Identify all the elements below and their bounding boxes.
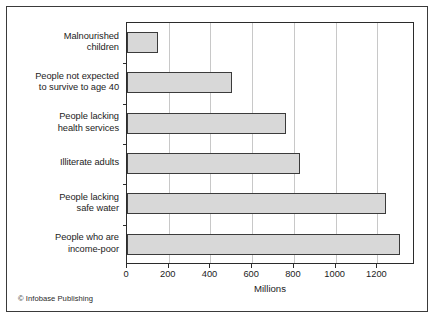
x-axis-tick-label: 1000 xyxy=(324,268,345,280)
copyright-credit: © Infobase Publishing xyxy=(18,294,93,303)
x-axis-tick-label: 200 xyxy=(160,268,176,280)
bar-row xyxy=(127,184,413,224)
y-axis-tick-mark xyxy=(123,225,127,226)
y-axis-category-label: Illiterate adults xyxy=(7,143,119,183)
y-axis-category-label: People lackingsafe water xyxy=(7,183,119,223)
y-axis-category-label: Malnourishedchildren xyxy=(7,22,119,62)
y-axis-tick-mark xyxy=(123,184,127,185)
x-axis-tick-label: 800 xyxy=(285,268,301,280)
y-axis-category-text: Illiterate adults xyxy=(60,157,119,168)
bar-row xyxy=(127,144,413,184)
x-axis-ticks: 020040060080010001200 xyxy=(126,264,414,280)
y-axis-category-text: People not expectedto survive to age 40 xyxy=(35,71,119,94)
y-axis-category-text: People who areincome-poor xyxy=(55,232,119,255)
y-axis-category-text: Malnourishedchildren xyxy=(64,31,119,54)
bar[interactable] xyxy=(127,153,300,174)
x-axis-tick-label: 1200 xyxy=(366,268,387,280)
y-axis-category-label: People not expectedto survive to age 40 xyxy=(7,62,119,102)
bar-row xyxy=(127,63,413,103)
y-axis-tick-mark xyxy=(123,104,127,105)
bar[interactable] xyxy=(127,32,158,53)
bar[interactable] xyxy=(127,113,286,134)
x-axis-tick-label: 600 xyxy=(243,268,259,280)
y-axis-tick-mark xyxy=(123,63,127,64)
chart-figure: MalnourishedchildrenPeople not expectedt… xyxy=(6,6,428,312)
bar-row xyxy=(127,225,413,265)
bar-row xyxy=(127,104,413,144)
y-axis-category-text: People lackingsafe water xyxy=(59,192,119,215)
bar-row xyxy=(127,23,413,63)
x-axis-tick-label: 0 xyxy=(123,268,128,280)
y-axis-category-label: People who areincome-poor xyxy=(7,224,119,264)
x-axis-title: Millions xyxy=(126,283,414,294)
x-axis-tick-label: 400 xyxy=(202,268,218,280)
bar[interactable] xyxy=(127,72,232,93)
bar[interactable] xyxy=(127,234,400,255)
y-axis-tick-mark xyxy=(123,144,127,145)
y-axis-category-label: People lackinghealth services xyxy=(7,103,119,143)
y-axis-category-text: People lackinghealth services xyxy=(58,111,119,134)
bar[interactable] xyxy=(127,193,386,214)
plot-area xyxy=(126,22,414,264)
y-axis-category-labels: MalnourishedchildrenPeople not expectedt… xyxy=(7,22,123,264)
